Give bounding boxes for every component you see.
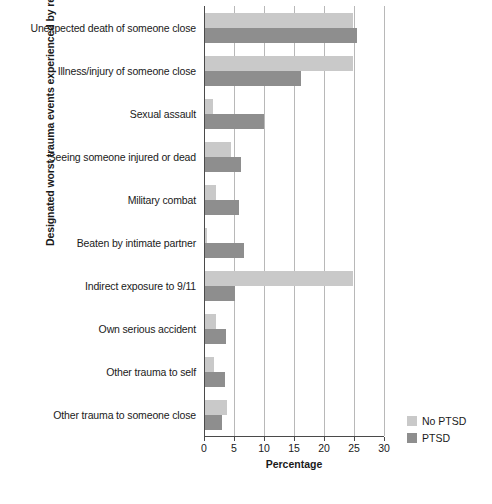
legend-item: PTSD [407,430,466,445]
bar-ptsd [205,114,264,129]
chart-row: Other trauma to self [0,351,492,394]
chart-rows: Unexpected death of someone closeIllness… [0,6,492,437]
legend-label: PTSD [422,432,450,444]
bar-group [205,49,485,92]
category-label: Illness/injury of someone close [0,65,196,77]
category-label: Beaten by intimate partner [0,237,196,249]
category-label: Own serious accident [0,323,196,335]
category-label: Other trauma to self [0,366,196,378]
chart-row: Beaten by intimate partner [0,222,492,265]
bar-ptsd [205,329,226,344]
bar-no-ptsd [205,99,213,114]
bar-no-ptsd [205,228,207,243]
bar-no-ptsd [205,271,353,286]
category-label: Other trauma to someone close [0,409,196,421]
bar-ptsd [205,71,301,86]
bar-ptsd [205,286,235,301]
bar-chart: Designated worst trauma events experienc… [0,0,492,504]
category-label: Unexpected death of someone close [0,22,196,34]
x-tick-mark [384,437,385,441]
bar-ptsd [205,243,244,258]
bar-no-ptsd [205,357,214,372]
x-tick-mark [324,437,325,441]
legend-item: No PTSD [407,413,466,428]
bar-group [205,6,485,49]
chart-row: Unexpected death of someone close [0,6,492,49]
x-tick-label: 30 [364,442,404,454]
chart-row: Own serious accident [0,308,492,351]
legend-label: No PTSD [422,415,466,427]
category-label: Military combat [0,194,196,206]
bar-no-ptsd [205,314,216,329]
bar-ptsd [205,28,357,43]
bar-ptsd [205,372,225,387]
category-label: Seeing someone injured or dead [0,151,196,163]
category-label: Sexual assault [0,108,196,120]
bar-group [205,351,485,394]
chart-row: Indirect exposure to 9/11 [0,265,492,308]
bar-no-ptsd [205,400,227,415]
x-axis-title: Percentage [204,458,384,470]
bar-group [205,265,485,308]
x-tick-mark [234,437,235,441]
legend-swatch-icon [407,416,417,426]
chart-row: Illness/injury of someone close [0,49,492,92]
chart-row: Military combat [0,178,492,221]
bar-no-ptsd [205,13,353,28]
bar-ptsd [205,415,222,430]
bar-group [205,222,485,265]
bar-no-ptsd [205,142,231,157]
bar-ptsd [205,157,241,172]
bar-group [205,135,485,178]
x-tick-mark [294,437,295,441]
bar-group [205,92,485,135]
bar-no-ptsd [205,185,216,200]
bar-no-ptsd [205,56,353,71]
chart-row: Seeing someone injured or dead [0,135,492,178]
bar-group [205,178,485,221]
chart-legend: No PTSDPTSD [407,413,466,447]
x-tick-mark [354,437,355,441]
bar-group [205,308,485,351]
x-tick-mark [264,437,265,441]
category-label: Indirect exposure to 9/11 [0,280,196,292]
x-tick-mark [204,437,205,441]
bar-ptsd [205,200,239,215]
legend-swatch-icon [407,433,417,443]
chart-row: Sexual assault [0,92,492,135]
